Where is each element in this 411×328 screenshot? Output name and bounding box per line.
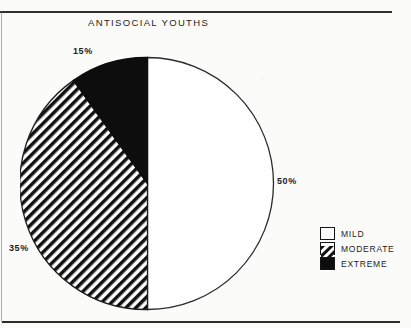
chart-page: ANTISOCIAL YOUTHS 15% 35% 50% MILD — [0, 0, 411, 328]
white-swatch-icon — [320, 227, 335, 240]
legend-item-moderate: MODERATE — [320, 241, 395, 256]
chart-title: ANTISOCIAL YOUTHS — [88, 17, 209, 28]
slice-value-moderate: 35% — [9, 243, 29, 253]
bottom-frame-rule — [2, 321, 400, 323]
chart-legend: MILD MODERATE EXTREME — [320, 226, 395, 271]
legend-label-mild: MILD — [341, 229, 364, 239]
pie-chart-svg — [20, 55, 276, 313]
slice-value-mild: 50% — [277, 176, 297, 186]
hatch-swatch-svg — [321, 246, 334, 257]
legend-label-extreme: EXTREME — [341, 259, 387, 269]
hatched-swatch-icon — [320, 242, 335, 255]
legend-item-mild: MILD — [320, 226, 395, 241]
black-swatch-icon — [320, 257, 335, 270]
pie-chart — [20, 55, 276, 313]
left-frame-rule — [1, 11, 2, 322]
legend-item-extreme: EXTREME — [320, 256, 395, 271]
slice-value-extreme: 15% — [73, 46, 93, 56]
legend-label-moderate: MODERATE — [341, 244, 395, 254]
top-frame-rule — [0, 11, 392, 13]
pie-slice-mild — [148, 58, 274, 310]
